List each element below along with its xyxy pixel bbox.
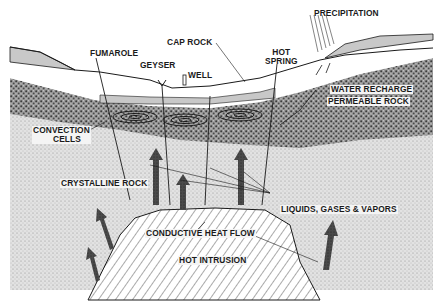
label-hot-spring-line2: SPRING bbox=[265, 57, 298, 66]
label-conductive-heat-flow: CONDUCTIVE HEAT FLOW bbox=[145, 229, 256, 238]
label-liquids-gases-vapors: LIQUIDS, GASES & VAPORS bbox=[280, 205, 398, 214]
well-icon bbox=[183, 75, 186, 85]
label-crystalline-rock: CRYSTALLINE ROCK bbox=[60, 179, 148, 188]
label-geyser: GEYSER bbox=[140, 61, 176, 70]
label-hot-intrusion: HOT INTRUSION bbox=[178, 256, 247, 265]
precipitation-lines bbox=[310, 15, 334, 52]
label-water-recharge: WATER RECHARGE bbox=[330, 85, 413, 94]
label-convection-cells: CONVECTION CELLS bbox=[32, 126, 91, 144]
label-fumarole: FUMAROLE bbox=[90, 49, 138, 58]
label-precipitation: PRECIPITATION bbox=[314, 9, 379, 18]
label-convection-line2: CELLS bbox=[33, 135, 90, 144]
label-cap-rock: CAP ROCK bbox=[167, 38, 212, 47]
label-well: WELL bbox=[188, 71, 212, 80]
label-hot-spring: HOT SPRING bbox=[265, 48, 298, 66]
label-permeable-rock: PERMEABLE ROCK bbox=[327, 97, 410, 106]
